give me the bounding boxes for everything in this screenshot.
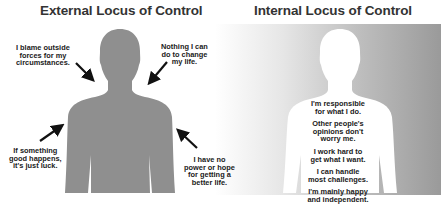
internal-statement-happy: I'm mainly happy and independent. [307, 188, 368, 203]
arrow-icon [76, 63, 91, 78]
arrow-icon [40, 127, 60, 141]
internal-statement-responsible: I'm responsible for what I do. [311, 100, 365, 115]
internal-statement-challenges: I can handle most challenges. [308, 168, 368, 183]
internal-statements-list: I'm responsible for what I do. Other peo… [294, 100, 382, 204]
internal-statement-opinions: Other people's opinions don't worry me. [312, 120, 363, 143]
arrow-icon [151, 62, 167, 81]
arrow-icon [180, 132, 197, 148]
internal-statement-work-hard: I work hard to get what I want. [310, 148, 365, 163]
